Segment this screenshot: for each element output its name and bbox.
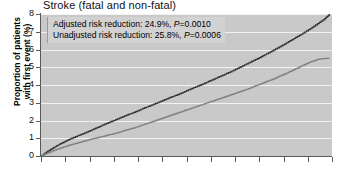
annotation-box: Adjusted risk reduction: 24.9%, P=0.0010… [47,17,225,43]
chart-figure: Stroke (fatal and non-fatal) Proportion … [0,0,340,171]
y-tick [36,14,41,15]
annotation-line-unadjusted: Unadjusted risk reduction: 25.8%, P=0.00… [53,30,221,41]
y-tick-label: 6 [14,45,34,54]
x-tick [41,157,42,162]
y-tick [36,32,41,33]
x-tick [235,157,236,162]
y-tick [36,85,41,86]
x-tick [284,157,285,162]
x-tick [308,157,309,162]
annotation-adjusted-p-value: =0.0010 [180,19,211,29]
y-tick [36,67,41,68]
lower-curve [41,58,330,156]
y-tick [36,121,41,122]
x-tick [162,157,163,162]
y-tick [36,138,41,139]
x-tick [211,157,212,162]
y-tick [36,103,41,104]
x-tick [187,157,188,162]
y-tick [36,50,41,51]
y-tick-label: 4 [14,80,34,89]
annotation-unadjusted-text: Unadjusted risk reduction: 25.8%, [53,30,184,40]
x-tick [138,157,139,162]
x-tick [332,157,333,162]
y-tick-label: 7 [14,27,34,36]
y-tick-label: 2 [14,116,34,125]
annotation-line-adjusted: Adjusted risk reduction: 24.9%, P=0.0010 [53,19,221,30]
annotation-adjusted-text: Adjusted risk reduction: 24.9%, [53,19,174,29]
y-tick-label: 3 [14,98,34,107]
y-tick-label: 5 [14,62,34,71]
chart-title: Stroke (fatal and non-fatal) [43,0,176,11]
annotation-unadjusted-p-value: =0.0006 [190,30,221,40]
x-tick [114,157,115,162]
y-tick-label: 0 [14,151,34,160]
y-tick-label: 1 [14,133,34,142]
x-tick [259,157,260,162]
y-tick-label: 8 [14,9,34,18]
x-tick [90,157,91,162]
x-tick [65,157,66,162]
